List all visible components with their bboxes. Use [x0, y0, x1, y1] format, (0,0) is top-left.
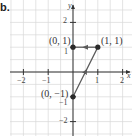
- path-arrow: [85, 71, 86, 73]
- data-point: [70, 45, 75, 50]
- x-tick-label: 2: [120, 77, 124, 85]
- y-axis-label: y: [68, 2, 72, 10]
- y-tick-label: −2: [59, 117, 68, 125]
- point-label-zero-one: (0, 1): [49, 36, 71, 46]
- data-point: [95, 45, 100, 50]
- x-tick-label: −2: [17, 77, 26, 85]
- y-tick-label: −1: [59, 99, 68, 107]
- y-tick-label: 1: [64, 48, 68, 56]
- x-tick-label: 1: [95, 77, 99, 85]
- y-tick-label: 2: [63, 17, 67, 25]
- point-label-one-one: (1, 1): [101, 36, 123, 46]
- data-point: [70, 94, 75, 99]
- x-tick-label: −1: [42, 77, 51, 85]
- x-axis-label: x: [127, 72, 131, 80]
